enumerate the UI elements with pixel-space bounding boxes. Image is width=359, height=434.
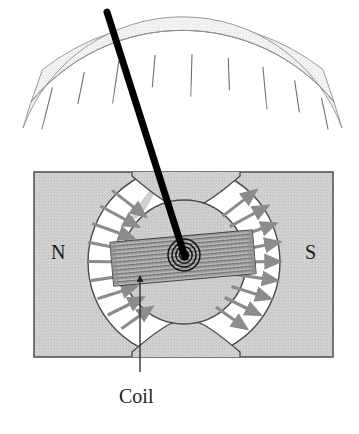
magnet-assembly [34,166,333,362]
meter-scale-arc [23,17,342,130]
scale-ticks [45,54,329,130]
scale-inner-band [23,17,342,128]
coil-label: Coil [119,385,154,407]
south-pole-label: S [305,241,316,263]
north-pole-label: N [51,241,65,263]
galvanometer-svg: N S Coil [0,0,359,434]
scale-divider-arc [31,30,334,102]
scale-subticks [42,86,267,129]
galvanometer-diagram: N S Coil [0,0,359,434]
